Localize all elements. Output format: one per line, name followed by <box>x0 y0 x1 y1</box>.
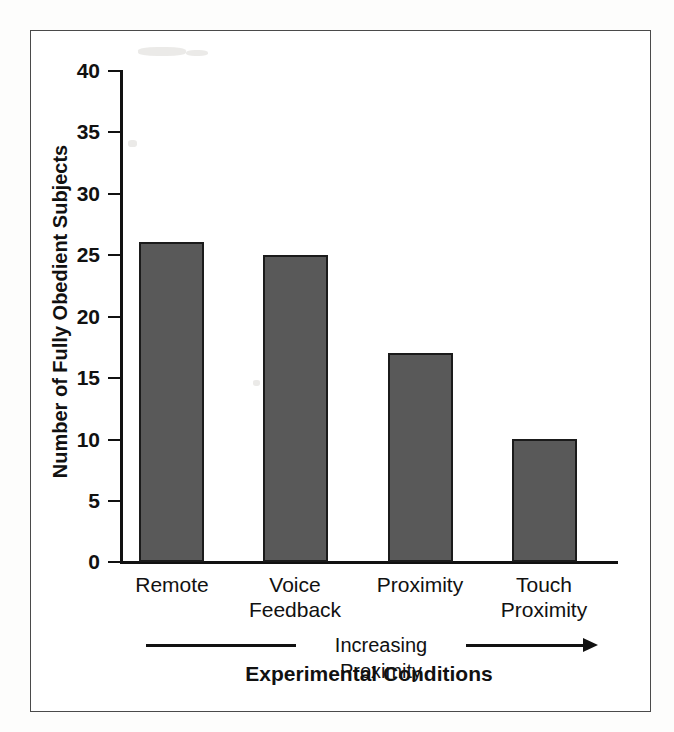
y-tick-label-30: 30 <box>54 183 100 204</box>
y-tick-mark-15 <box>108 377 121 379</box>
increasing-proximity-annotation: Increasing Proximity <box>146 632 598 658</box>
y-tick-label-25: 25 <box>54 244 100 265</box>
y-tick-label-5: 5 <box>54 490 100 511</box>
x-tick-label-remote: Remote <box>111 572 233 597</box>
y-tick-label-15: 15 <box>54 367 100 388</box>
y-tick-mark-40 <box>108 70 121 72</box>
figure-page: Number of Fully Obedient Subjects 40 35 … <box>0 0 674 732</box>
arrow-line-right <box>466 644 586 647</box>
bar-chart-plot-area: Number of Fully Obedient Subjects 40 35 … <box>0 0 674 732</box>
y-tick-label-40-wrap: 40 <box>48 60 100 82</box>
bar-voice-feedback <box>263 255 328 563</box>
y-tick-label-25-wrap: 25 <box>48 244 100 266</box>
arrow-line-left <box>146 644 296 647</box>
y-tick-label-15-wrap: 15 <box>48 367 100 389</box>
y-tick-label-30-wrap: 30 <box>48 183 100 205</box>
arrow-head-icon <box>583 638 598 652</box>
y-tick-label-10-wrap: 10 <box>48 429 100 451</box>
bar-proximity <box>388 353 453 562</box>
y-tick-label-40: 40 <box>54 60 100 81</box>
y-tick-label-20: 20 <box>54 306 100 327</box>
y-tick-mark-0 <box>108 561 121 563</box>
y-tick-mark-20 <box>108 316 121 318</box>
y-tick-label-0: 0 <box>54 551 100 572</box>
x-tick-label-proximity: Proximity <box>359 572 481 597</box>
y-tick-label-20-wrap: 20 <box>48 306 100 328</box>
bar-remote <box>139 242 204 562</box>
x-tick-label-touch-proximity: Touch Proximity <box>483 572 605 622</box>
y-tick-mark-30 <box>108 193 121 195</box>
y-tick-label-10: 10 <box>54 429 100 450</box>
y-tick-label-0-wrap: 0 <box>48 551 100 573</box>
x-tick-label-voice-feedback: Voice Feedback <box>234 572 356 622</box>
bar-touch-proximity <box>512 439 577 562</box>
y-tick-mark-35 <box>108 131 121 133</box>
y-tick-mark-25 <box>108 254 121 256</box>
y-tick-label-5-wrap: 5 <box>48 490 100 512</box>
y-tick-label-35-wrap: 35 <box>48 121 100 143</box>
y-tick-mark-5 <box>108 500 121 502</box>
y-tick-mark-10 <box>108 439 121 441</box>
x-axis-title: Experimental Conditions <box>120 662 618 686</box>
y-tick-label-35: 35 <box>54 121 100 142</box>
